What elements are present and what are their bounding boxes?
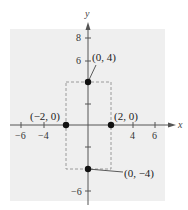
x-axis-label: x [177,119,183,130]
y-axis-label: y [84,8,90,19]
y-tick-label: 6 [76,55,81,66]
point-label-left: (−2, 0) [30,110,60,123]
point-label-bottom: (0, −4) [124,167,154,180]
point-label-top: (0, 4) [92,51,116,64]
x-tick-label: −6 [15,130,26,141]
y-tick-label: −6 [71,186,82,197]
y-tick-label: 8 [76,32,81,43]
point-0-neg4 [85,166,91,172]
x-tick-label: 4 [130,130,135,141]
point-2-0 [108,122,114,128]
y-axis-arrow-icon [86,22,91,30]
x-tick-label: −4 [38,130,49,141]
x-axis-arrow-icon [168,123,176,128]
point-neg2-0 [63,122,69,128]
point-0-4 [85,79,91,85]
chart: x y −6 −4 4 6 8 6 −6 (0, 4) (−2, 0) (2, … [0,0,188,210]
x-tick-label: 6 [152,130,157,141]
point-label-right: (2, 0) [114,110,138,123]
